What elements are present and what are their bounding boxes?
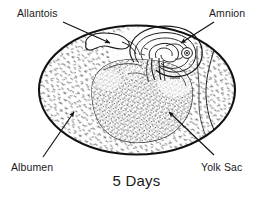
egg-development-figure: Allantois Amnion Albumen Yolk Sac 5 Days	[0, 0, 273, 202]
label-amnion: Amnion	[209, 7, 245, 19]
label-allantois: Allantois	[17, 7, 58, 19]
embryo-eye-icon	[182, 48, 193, 59]
figure-caption: 5 Days	[0, 172, 273, 190]
